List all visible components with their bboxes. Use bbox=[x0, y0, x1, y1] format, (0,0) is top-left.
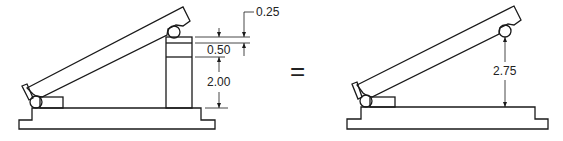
arrowhead bbox=[242, 32, 246, 37]
right-sine-bar bbox=[357, 6, 521, 97]
right-base-plate bbox=[347, 107, 548, 129]
dim-0-25-leader bbox=[244, 12, 254, 25]
left-hinge-block bbox=[40, 97, 63, 108]
right-hinge-block bbox=[370, 97, 395, 107]
right-setup: 2.75 bbox=[347, 6, 548, 129]
arrowhead bbox=[217, 103, 221, 108]
arrowhead bbox=[217, 57, 221, 62]
dim-label-0-50: 0.50 bbox=[207, 43, 231, 57]
equals-sign: = bbox=[290, 56, 305, 86]
dim-label-2-00: 2.00 bbox=[207, 75, 231, 89]
left-base-plate bbox=[19, 108, 215, 129]
left-setup: 0.25 0.50 2.00 bbox=[19, 5, 280, 129]
sine-bar-diagram: 0.25 0.50 2.00 = 2.75 bbox=[0, 0, 563, 141]
arrowhead bbox=[217, 32, 221, 37]
arrowhead bbox=[503, 102, 507, 107]
arrowhead bbox=[503, 37, 507, 42]
gauge-block-stack bbox=[166, 37, 192, 108]
dim-label-0-25: 0.25 bbox=[256, 5, 280, 19]
dim-label-2-75: 2.75 bbox=[493, 64, 517, 78]
right-upper-roller bbox=[499, 25, 511, 37]
arrowhead bbox=[242, 43, 246, 48]
